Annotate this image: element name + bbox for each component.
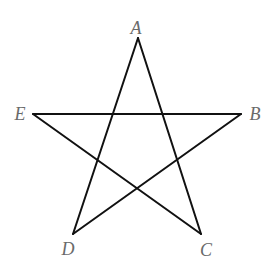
vertex-label-c: C	[200, 241, 212, 259]
segment-ac	[138, 38, 201, 234]
star-segments	[33, 38, 241, 234]
segment-ec	[33, 114, 201, 234]
vertex-label-a: A	[131, 19, 142, 37]
vertex-label-d: D	[62, 240, 75, 258]
vertex-label-e: E	[15, 105, 26, 123]
segment-ad	[73, 38, 138, 234]
segment-bd	[73, 114, 241, 234]
vertex-label-b: B	[250, 105, 261, 123]
pentagram-diagram	[0, 0, 276, 272]
